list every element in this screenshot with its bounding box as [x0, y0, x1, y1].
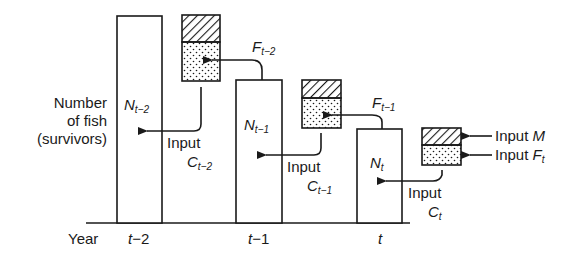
- input-c-label-t: Ct: [428, 203, 443, 222]
- year-label-t: t: [378, 230, 383, 247]
- input-c-word-t: Input: [408, 184, 442, 201]
- y-label-line2: of fish: [67, 112, 107, 129]
- year-label-t-1: t−1: [248, 230, 269, 247]
- bar-year-t: [357, 129, 402, 223]
- y-label-line3: (survivors): [37, 130, 107, 147]
- mortality-box-t-2: [182, 15, 220, 81]
- y-label-line1: Number: [54, 94, 107, 111]
- input-c-word-t-1: Input: [287, 158, 321, 175]
- legend-input-f: Input Ft: [495, 146, 546, 165]
- vpa-diagram: Number of fish (survivors) Nt−2 Nt−1 Nt …: [0, 0, 577, 261]
- year-label-t-2: t−2: [128, 230, 149, 247]
- mortality-box-t: [422, 128, 461, 165]
- x-axis-label: Year: [68, 230, 98, 247]
- f-label-t-1: Ft−1: [372, 94, 395, 113]
- legend-input-m: Input M: [495, 127, 546, 144]
- bar-year-t-1: [236, 80, 282, 223]
- input-c-word-t-2: Input: [167, 134, 201, 151]
- input-c-label-t-1: Ct−1: [307, 177, 332, 196]
- f-label-t-2: Ft−2: [252, 38, 276, 57]
- input-c-label-t-2: Ct−2: [187, 153, 212, 172]
- mortality-box-t-1: [302, 80, 341, 128]
- bar-year-t-2: [117, 16, 162, 223]
